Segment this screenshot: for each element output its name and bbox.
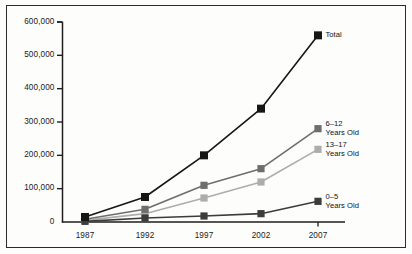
y-axis-tick-label: 400,000 — [0, 83, 55, 92]
series-label: 13–17Years Old — [326, 140, 360, 159]
series-label-line: Years Old — [326, 149, 360, 158]
data-point-marker — [200, 212, 207, 219]
series-label: 0–5Years Old — [326, 192, 360, 211]
data-point-marker — [200, 194, 207, 201]
data-point-marker — [141, 214, 148, 221]
series-label-line: Years Old — [326, 201, 360, 210]
x-axis-tick-label: 1987 — [60, 231, 110, 240]
x-axis-tick-label: 1992 — [120, 231, 170, 240]
y-axis-tick-label: 200,000 — [0, 150, 55, 159]
data-point-marker — [257, 210, 264, 217]
series-label-line: 13–17 — [326, 140, 360, 149]
chart-figure: 0100,000200,000300,000400,000500,000600,… — [0, 0, 412, 254]
y-axis-tick-label: 300,000 — [0, 117, 55, 126]
x-axis-tick-label: 2007 — [293, 231, 343, 240]
data-point-marker — [257, 178, 264, 185]
data-point-marker — [257, 165, 264, 172]
y-axis-tick-label: 100,000 — [0, 183, 55, 192]
data-point-marker — [314, 198, 321, 205]
series-label: Total — [326, 30, 342, 39]
data-point-marker — [314, 31, 322, 39]
series-label: 6–12Years Old — [326, 119, 360, 138]
data-point-marker — [314, 146, 321, 153]
data-point-marker — [141, 206, 148, 213]
series-line — [85, 35, 318, 217]
x-axis-tick-label: 1997 — [179, 231, 229, 240]
data-point-marker — [200, 182, 207, 189]
series-label-line: 0–5 — [326, 192, 360, 201]
y-axis-tick-label: 0 — [0, 217, 55, 226]
y-axis-tick-label: 600,000 — [0, 17, 55, 26]
data-point-marker — [257, 105, 265, 113]
data-point-marker — [141, 193, 149, 201]
series-label-line: Total — [326, 30, 342, 39]
y-axis-tick-label: 500,000 — [0, 50, 55, 59]
data-point-marker — [200, 151, 208, 159]
x-axis-tick-label: 2002 — [236, 231, 286, 240]
data-point-marker — [314, 125, 321, 132]
data-point-marker — [81, 213, 89, 221]
series-label-line: Years Old — [326, 128, 360, 137]
series-label-line: 6–12 — [326, 119, 360, 128]
series-layer — [81, 31, 322, 225]
